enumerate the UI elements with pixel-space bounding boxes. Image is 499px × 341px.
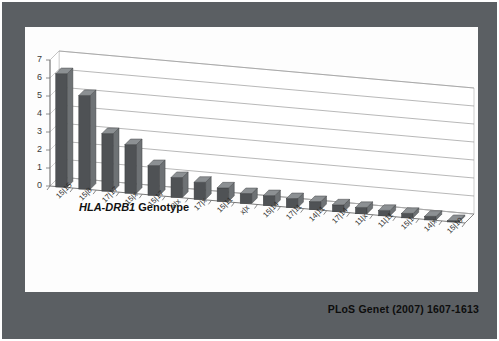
bar-chart: 7654321015|1515|817|1715|x15|178|x17|x15… bbox=[25, 27, 478, 292]
bar bbox=[102, 128, 119, 191]
x-axis-title-word: Genotype bbox=[135, 201, 189, 213]
bar bbox=[125, 139, 142, 193]
y-axis-tick-label: 7 bbox=[28, 54, 42, 64]
y-axis-tick-label: 5 bbox=[28, 90, 42, 100]
y-axis-tick-label: 3 bbox=[28, 126, 42, 136]
x-axis-title: HLA-DRB1 Genotype bbox=[79, 201, 189, 213]
bar bbox=[56, 68, 73, 187]
chart-plot-area bbox=[25, 27, 478, 292]
y-axis-tick-label: 0 bbox=[28, 180, 42, 190]
y-axis-tick-label: 1 bbox=[28, 162, 42, 172]
y-axis-tick-label: 6 bbox=[28, 72, 42, 82]
y-axis-tick-label: 4 bbox=[28, 108, 42, 118]
citation-text: PLoS Genet (2007) 1607-1613 bbox=[0, 303, 479, 315]
x-axis-title-gene: HLA-DRB1 bbox=[79, 201, 135, 213]
slide-canvas: 7654321015|1515|817|1715|x15|178|x17|x15… bbox=[0, 0, 499, 341]
bar bbox=[79, 90, 96, 189]
y-axis-tick-label: 2 bbox=[28, 144, 42, 154]
bar bbox=[171, 172, 188, 197]
